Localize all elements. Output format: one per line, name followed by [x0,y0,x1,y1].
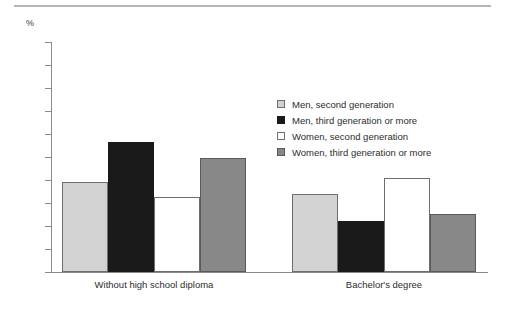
bar [154,197,200,272]
legend-swatch-icon [277,116,285,124]
bar-chart: % 50454035302520151050 Without high scho… [0,0,505,315]
y-axis-tick-mark [45,272,51,273]
y-axis-tick-mark [45,65,51,66]
legend-item: Women, third generation or more [277,144,431,160]
y-axis-line [51,42,52,273]
legend-item-label: Women, third generation or more [292,147,431,158]
x-axis-category-label: Without high school diploma [62,279,246,290]
y-axis-tick-mark [45,111,51,112]
legend-item: Men, second generation [277,96,431,112]
y-axis-tick-mark [45,226,51,227]
y-axis-tick-mark [45,203,51,204]
bar [200,158,246,272]
legend-item: Men, third generation or more [277,112,431,128]
legend-item-label: Men, second generation [292,99,394,110]
y-axis-tick-mark [45,157,51,158]
legend-item-label: Men, third generation or more [292,115,417,126]
x-axis-category-label: Bachelor's degree [292,279,476,290]
bar [62,182,108,272]
y-axis-tick-mark [45,180,51,181]
chart-page: % 50454035302520151050 Without high scho… [0,0,505,315]
y-axis-tick-mark [45,88,51,89]
bar [338,221,384,272]
bar-group: Without high school diploma [62,41,246,272]
bar [430,214,476,272]
legend-item-label: Women, second generation [292,131,408,142]
y-axis-tick-mark [45,42,51,43]
bar [108,142,154,272]
legend-swatch-icon [277,148,285,156]
x-axis-line [51,272,488,273]
bar [292,194,338,272]
chart-legend: Men, second generationMen, third generat… [277,96,431,160]
y-axis-tick-mark [45,134,51,135]
legend-item: Women, second generation [277,128,431,144]
y-axis-tick-mark [45,249,51,250]
legend-swatch-icon [277,132,285,140]
y-axis-unit-label: % [26,18,34,28]
legend-swatch-icon [277,100,285,108]
bar [384,178,430,272]
